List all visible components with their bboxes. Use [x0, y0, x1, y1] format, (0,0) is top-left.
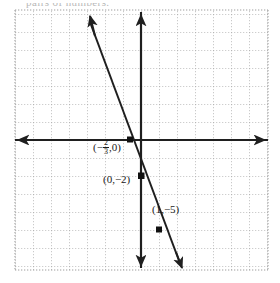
label-third-point: (1,−5) — [152, 203, 179, 215]
point-third — [156, 227, 162, 233]
label-x-intercept-suffix: ,0) — [109, 141, 121, 153]
coordinate-plane — [0, 0, 280, 283]
graph-figure: pairs of numbers. — [0, 0, 280, 283]
label-y-intercept: (0,−2) — [103, 173, 130, 185]
label-x-intercept-prefix: (− — [93, 141, 103, 153]
label-x-intercept: (−23,0) — [93, 139, 121, 156]
point-y-intercept — [138, 173, 145, 180]
point-x-intercept — [127, 137, 133, 143]
